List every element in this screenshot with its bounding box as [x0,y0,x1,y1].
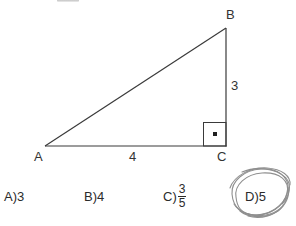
answer-option-d-label: D)5 [245,190,266,204]
answer-options-row: A)3 B)4 C) 3 5 D)5 [0,182,296,226]
vertex-label-b: B [226,8,235,21]
vertex-label-a: A [34,150,43,163]
worksheet-page: B A C 3 4 A)3 B)4 C) 3 5 D)5 [0,0,296,226]
answer-option-c[interactable]: C) 3 5 [163,184,186,209]
fraction-denominator: 5 [178,196,187,209]
answer-option-b[interactable]: B)4 [84,190,104,204]
triangle-figure: B A C 3 4 [0,0,296,175]
fraction-numerator: 3 [178,184,187,196]
answer-option-a-label: A)3 [4,190,24,204]
answer-option-a[interactable]: A)3 [4,190,24,204]
vertex-label-c: C [217,150,226,163]
right-angle-dot-icon [213,132,217,136]
side-length-label-ac: 4 [129,150,136,163]
answer-option-c-label: C) [163,190,177,204]
side-length-label-bc: 3 [231,79,238,92]
hypotenuse-line [45,28,226,146]
answer-option-d[interactable]: D)5 [245,190,266,204]
answer-option-c-fraction: 3 5 [178,184,187,209]
answer-option-b-label: B)4 [84,190,104,204]
